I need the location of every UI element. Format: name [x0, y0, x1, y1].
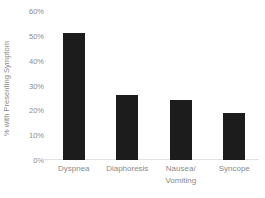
y-axis-tick-labels: 60%50%40%30%20%10%0% — [16, 0, 46, 198]
y-axis-tick-label: 40% — [29, 56, 44, 65]
y-axis-tick-label: 10% — [29, 131, 44, 140]
y-axis-title: % with Presenting Symptom — [0, 22, 14, 154]
bar-chart: % with Presenting Symptom 60%50%40%30%20… — [0, 0, 265, 198]
bar — [170, 100, 192, 160]
x-axis-category-label-line: Vomiting — [151, 175, 211, 187]
bar — [116, 95, 138, 160]
x-axis-category-label-line: Dyspnea — [58, 164, 90, 173]
x-axis-category-label-line: Nausea/ — [166, 164, 196, 173]
y-axis-tick-label: 30% — [29, 81, 44, 90]
x-axis-category-label-line: Diaphoresis — [106, 164, 148, 173]
y-axis-tick-label: 0% — [33, 156, 44, 165]
y-axis-tick-label: 50% — [29, 31, 44, 40]
y-axis-tick-label: 20% — [29, 106, 44, 115]
x-axis-category-label: Diaphoresis — [97, 163, 157, 175]
plot-area — [47, 11, 261, 160]
x-axis-category-label: Syncope — [204, 163, 264, 175]
bar — [223, 113, 245, 160]
x-axis-category-labels: DyspneaDiaphoresisNausea/VomitingSyncope — [47, 163, 261, 198]
x-axis-category-label: Dyspnea — [44, 163, 104, 175]
x-axis-category-label-line: Syncope — [219, 164, 250, 173]
y-axis-title-text: % with Presenting Symptom — [3, 40, 12, 135]
y-axis-tick-label: 60% — [29, 7, 44, 16]
x-axis-category-label: Nausea/Vomiting — [151, 163, 211, 186]
bar — [63, 33, 85, 160]
